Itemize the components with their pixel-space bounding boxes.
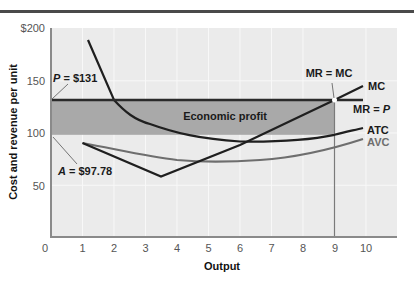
x-tick-1: 1 <box>79 242 85 254</box>
x-tick-10: 10 <box>360 242 372 254</box>
mr-mc-label: MR = MC <box>306 67 353 79</box>
x-tick-4: 4 <box>174 242 180 254</box>
atc-value: = $97.78 <box>66 165 112 177</box>
atc-symbol: A <box>57 165 66 177</box>
y-axis-title: Cost and revenue per unit <box>7 64 19 200</box>
x-tick-9: 9 <box>332 242 338 254</box>
y-tick-150: 150 <box>27 75 45 87</box>
price-value: = $131 <box>60 72 97 84</box>
atc-value-label: A = $97.78 <box>57 165 112 177</box>
cost-revenue-chart: $200 150 100 50 0 1 2 3 4 5 6 7 8 9 10 O… <box>0 0 414 286</box>
mr-p-label: MR = P <box>353 103 391 115</box>
mc-label: MC <box>368 80 385 92</box>
economic-profit-label: Economic profit <box>183 110 267 122</box>
mr-mc-intersection-point <box>332 98 337 103</box>
y-tick-50: 50 <box>33 180 45 192</box>
x-tick-3: 3 <box>142 242 148 254</box>
avc-label: AVC <box>367 136 389 148</box>
mr-p-prefix: MR = <box>353 103 383 115</box>
x-tick-6: 6 <box>237 242 243 254</box>
x-tick-7: 7 <box>268 242 274 254</box>
x-tick-2: 2 <box>111 242 117 254</box>
y-tick-200: $200 <box>21 22 45 34</box>
price-label: P = $131 <box>53 72 97 84</box>
x-axis-title: Output <box>204 260 240 272</box>
x-tick-8: 8 <box>300 242 306 254</box>
y-tick-100: 100 <box>27 127 45 139</box>
x-tick-5: 5 <box>205 242 211 254</box>
mr-p-symbol: P <box>383 103 391 115</box>
atc-label: ATC <box>367 124 389 136</box>
x-tick-0: 0 <box>42 242 48 254</box>
